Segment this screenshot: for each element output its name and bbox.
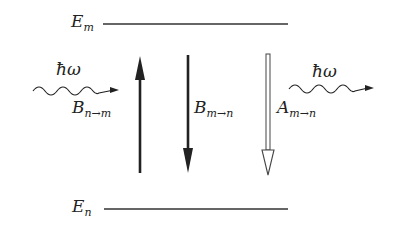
absorption-arrow <box>135 56 145 173</box>
lower-level-label: En <box>72 198 92 218</box>
outgoing-photon-label: ħω <box>312 63 337 80</box>
upper-level-label: Em <box>71 13 94 33</box>
absorption-coefficient-label: Bn→m <box>72 99 111 119</box>
outgoing-photon-wave <box>289 85 374 93</box>
spontaneous-emission-coefficient-label: Am→n <box>277 99 316 119</box>
stimulated-emission-coefficient-label: Bm→n <box>194 99 233 119</box>
incoming-photon-wave <box>33 87 119 95</box>
stimulated-emission-arrow <box>183 55 193 173</box>
incoming-photon-label: ħω <box>56 61 81 78</box>
spontaneous-emission-arrow <box>262 54 274 175</box>
